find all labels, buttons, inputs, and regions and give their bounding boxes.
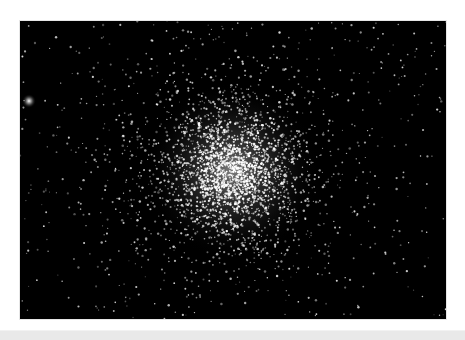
star-field-canvas: [20, 21, 446, 319]
bottom-bar: [0, 330, 465, 340]
cropped-caption-text: [20, 0, 320, 4]
star-cluster-photo: [20, 21, 446, 319]
